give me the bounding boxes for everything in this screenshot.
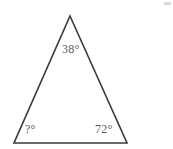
triangle-figure: 38° ?° 72° — [0, 0, 173, 149]
bottom-right-angle-label: 72° — [95, 123, 112, 135]
apex-angle-label: 38° — [62, 43, 79, 55]
scan-artifact — [164, 2, 171, 5]
bottom-left-angle-label: ?° — [25, 123, 36, 135]
